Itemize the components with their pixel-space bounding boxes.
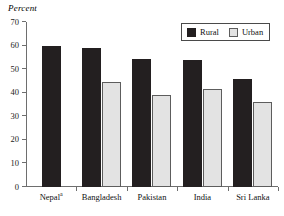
legend-label-rural: Rural [200,27,219,37]
x-axis-separator-tick [228,187,229,191]
legend-item-rural: Rural [187,27,219,37]
x-axis-separator-tick [76,187,77,191]
chart-figure: Percent 010203040506070 Rural Urban Nepa… [0,0,284,216]
y-axis-tick-label: 50 [11,64,20,74]
bar-group [76,22,126,187]
x-axis-label-text: Sri Lanka [236,192,269,202]
y-axis-tick-label: 30 [11,111,20,121]
x-axis-label-text: India [194,192,211,202]
x-axis-label-india: India [177,192,227,202]
bar-urban-pakistan [152,95,171,187]
y-axis-tick-label: 0 [15,182,19,192]
bar-group [177,22,227,187]
x-axis-separator-tick [127,187,128,191]
x-axis-label-nepal: Nepala [26,192,76,202]
plot-area: 010203040506070 [26,22,278,187]
bar-rural-nepal [42,46,61,187]
x-axis-label-text: Nepal [40,192,60,202]
bar-urban-sri-lanka [253,102,272,187]
x-axis-label-text: Bangladesh [82,192,122,202]
legend-swatch-rural-icon [187,28,196,37]
bar-group [127,22,177,187]
x-axis-label-bangladesh: Bangladesh [76,192,126,202]
legend-label-urban: Urban [242,27,263,37]
x-axis-separator-tick [177,187,178,191]
bar-group [26,22,76,187]
x-axis-label-footnote: a [60,191,63,197]
bar-rural-sri-lanka [233,79,252,187]
y-axis-tick-label: 70 [11,17,20,27]
y-axis-tick-label: 40 [11,87,20,97]
chart-legend: Rural Urban [181,23,270,41]
y-axis-tick-label: 10 [11,158,20,168]
x-axis-label-sri-lanka: Sri Lanka [228,192,278,202]
y-axis-title: Percent [8,3,37,13]
bar-rural-pakistan [132,59,151,187]
x-axis-separator-tick [278,187,279,191]
bar-urban-india [203,89,222,187]
y-axis-tick-label: 20 [11,134,20,144]
legend-item-urban: Urban [229,27,263,37]
bar-urban-bangladesh [102,82,121,187]
y-axis-tick-label: 60 [11,40,20,50]
bar-rural-india [183,60,202,187]
x-axis-label-text: Pakistan [138,192,167,202]
legend-swatch-urban-icon [229,28,238,37]
x-axis-label-pakistan: Pakistan [127,192,177,202]
bar-rural-bangladesh [82,48,101,187]
bar-group [228,22,278,187]
